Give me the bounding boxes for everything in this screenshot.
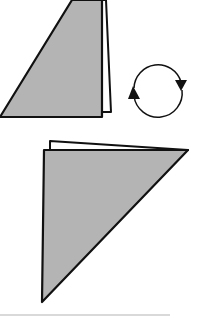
top-front-triangle (0, 0, 102, 117)
bottom-front-triangle (42, 150, 188, 302)
bottom-back-flap (50, 141, 188, 150)
arrowhead-up-icon (128, 86, 140, 99)
arrowhead-down-icon (175, 80, 187, 91)
top-folded-triangle (0, 0, 111, 117)
origami-diagram (0, 0, 201, 320)
bottom-folded-triangle (42, 141, 188, 302)
turn-over-icon (128, 65, 187, 117)
